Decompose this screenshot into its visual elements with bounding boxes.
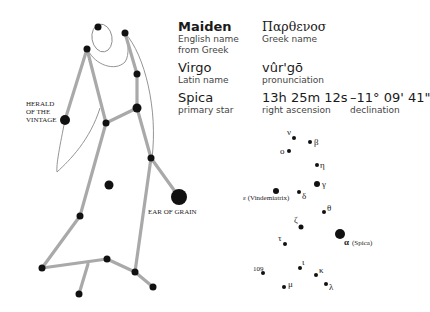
star-dot bbox=[76, 291, 83, 298]
latin-name-label: Latin name bbox=[178, 75, 229, 86]
star-dot bbox=[148, 155, 155, 162]
greek-name-value: Παρθενοσ bbox=[262, 19, 326, 34]
star-dot bbox=[134, 71, 141, 78]
herald-label-line2: OF THE bbox=[26, 108, 50, 116]
star-delta bbox=[297, 190, 301, 194]
star-dot bbox=[77, 213, 84, 220]
star-dot bbox=[122, 30, 129, 37]
declination-label: declination bbox=[350, 105, 430, 116]
label-gamma: γ bbox=[321, 179, 326, 189]
star-dot bbox=[103, 120, 110, 127]
label-109: 109 bbox=[253, 265, 264, 273]
label-tau: τ bbox=[278, 233, 282, 243]
label-kappa: κ bbox=[319, 265, 324, 275]
declination-value: –11° 09' 41" bbox=[350, 90, 430, 105]
star-omicron bbox=[287, 149, 291, 153]
ear-of-grain-label: EAR OF GRAIN bbox=[148, 208, 197, 216]
right-ascension-block: 13h 25m 12s right ascension bbox=[262, 90, 348, 116]
star-dot bbox=[104, 256, 111, 263]
english-name-label: English name bbox=[178, 34, 239, 45]
pronunciation-block: vûr'gō pronunciation bbox=[262, 60, 324, 86]
star-dot bbox=[150, 284, 157, 291]
right-ascension-label: right ascension bbox=[262, 105, 348, 116]
primary-star-block: Spica primary star bbox=[178, 90, 234, 116]
label-theta: θ bbox=[327, 203, 331, 213]
english-name-label-2: from Greek bbox=[178, 45, 239, 56]
star-beta bbox=[308, 140, 312, 144]
star-lambda bbox=[324, 282, 328, 286]
declination-block: –11° 09' 41" declination bbox=[350, 90, 430, 116]
star-zeta bbox=[299, 225, 304, 230]
figure-stars bbox=[39, 24, 188, 298]
star-tau bbox=[283, 242, 287, 246]
star-dot bbox=[133, 104, 142, 113]
star-theta bbox=[322, 210, 326, 214]
english-name-block: Maiden English name from Greek bbox=[178, 19, 239, 56]
label-eta: η bbox=[320, 160, 325, 170]
label-alpha: α bbox=[344, 237, 349, 247]
herald-label-line1: HERALD bbox=[26, 100, 54, 108]
label-zeta: ζ bbox=[294, 215, 298, 225]
star-dot bbox=[95, 24, 102, 31]
right-ascension-value: 13h 25m 12s bbox=[262, 90, 348, 105]
latin-name-value: Virgo bbox=[178, 60, 229, 75]
figure-lines bbox=[42, 33, 179, 294]
star-mu bbox=[282, 285, 286, 289]
star-dot bbox=[60, 115, 70, 125]
star-dot bbox=[132, 269, 139, 276]
star-kappa bbox=[314, 273, 318, 277]
label-spica: (Spica) bbox=[352, 239, 373, 247]
label-lambda: λ bbox=[329, 282, 334, 292]
label-nu: ν bbox=[287, 127, 291, 137]
label-beta: β bbox=[314, 137, 319, 147]
latin-name-block: Virgo Latin name bbox=[178, 60, 229, 86]
label-epsilon: ε (Vindemiatrix) bbox=[243, 194, 290, 202]
star-dot bbox=[39, 265, 46, 272]
label-omicron: ο bbox=[280, 146, 285, 156]
star-gamma bbox=[314, 181, 320, 187]
greek-name-label: Greek name bbox=[262, 34, 326, 45]
star-dot bbox=[105, 181, 114, 190]
label-iota: ι bbox=[302, 257, 305, 267]
label-delta: δ bbox=[302, 191, 306, 201]
star-dot bbox=[171, 189, 187, 205]
english-name-value: Maiden bbox=[178, 19, 239, 34]
pronunciation-label: pronunciation bbox=[262, 75, 324, 86]
star-nu bbox=[292, 136, 296, 140]
star-dot bbox=[84, 46, 91, 53]
primary-star-value: Spica bbox=[178, 90, 234, 105]
star-eta bbox=[315, 163, 319, 167]
label-mu: μ bbox=[288, 279, 293, 289]
primary-star-label: primary star bbox=[178, 105, 234, 116]
greek-name-block: Παρθενοσ Greek name bbox=[262, 19, 326, 45]
pronunciation-value: vûr'gō bbox=[262, 60, 324, 75]
herald-label-line3: VINTAGE bbox=[26, 116, 57, 124]
